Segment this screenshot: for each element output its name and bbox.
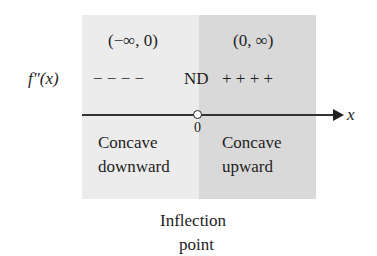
open-point-icon xyxy=(193,110,202,119)
x-axis-line xyxy=(82,114,338,116)
caption-line2: point xyxy=(179,233,214,256)
concave-down-line2: downward xyxy=(98,155,170,179)
concave-down-line1: Concave xyxy=(98,131,157,155)
not-defined-label: ND xyxy=(184,70,209,87)
second-derivative-label: f″(x) xyxy=(28,70,59,87)
concave-up-line2: upward xyxy=(222,155,273,179)
axis-variable-label: x xyxy=(347,106,355,123)
interval-right-label: (0, ∞) xyxy=(233,32,273,49)
interval-left-label: (−∞, 0) xyxy=(108,32,158,49)
axis-arrow-icon xyxy=(333,109,344,121)
concave-up-line1: Concave xyxy=(222,131,281,155)
positive-signs: + + + + xyxy=(222,70,273,87)
negative-signs: − − − − xyxy=(93,70,144,87)
caption-line1: Inflection xyxy=(160,209,226,233)
axis-point-label: 0 xyxy=(194,121,201,135)
